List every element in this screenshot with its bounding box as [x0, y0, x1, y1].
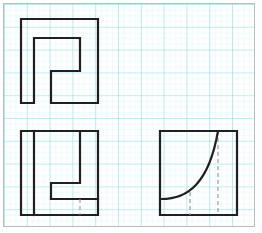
spiral-outline-path: [21, 19, 98, 103]
curve-square-outer-path: [160, 131, 237, 215]
screenshot-root: [0, 0, 262, 233]
figures-layer: [0, 0, 262, 233]
figure-bottom-left-step-square: [21, 131, 98, 215]
figure-top-left-spiral: [21, 19, 98, 103]
step-square-inner-step: [51, 131, 80, 199]
figure-bottom-right-curve-square: [160, 131, 237, 215]
curve-square-arc-path: [160, 131, 218, 199]
step-square-outer-path: [21, 131, 98, 215]
